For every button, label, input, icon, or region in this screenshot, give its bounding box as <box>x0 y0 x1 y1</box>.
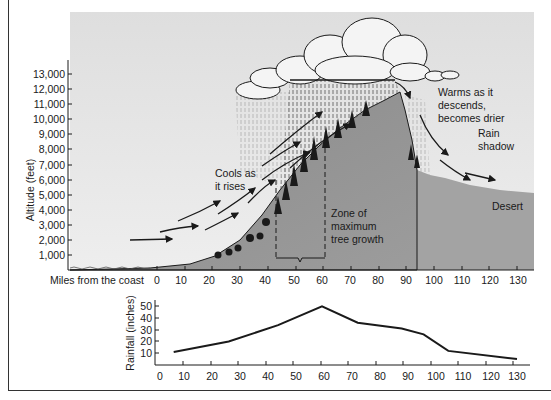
rainfall-axis-label: Rainfall (inches) <box>124 295 136 370</box>
y-tick: 7,000 <box>39 159 65 171</box>
y-tick: 40 <box>140 312 152 324</box>
annotation-desert: Desert <box>492 200 523 212</box>
annotation-line: Cools as <box>215 167 256 179</box>
x-tick: 30 <box>234 370 246 382</box>
diagram-canvas: 13,000 12,000 11,000 10,000 9,000 8,000 … <box>0 0 551 400</box>
y-tick: 8,000 <box>39 143 65 155</box>
x-tick: 30 <box>231 274 243 286</box>
x-tick: 120 <box>481 274 499 286</box>
x-tick: 10 <box>175 274 187 286</box>
x-tick: 70 <box>346 370 358 382</box>
rainfall-x-ticks <box>183 361 513 365</box>
x-tick: 90 <box>402 370 414 382</box>
x-tick: 90 <box>400 274 412 286</box>
x-tick: 10 <box>178 370 190 382</box>
rainfall-x-tick-labels: 0 10 20 30 40 50 60 70 80 90 100 110 120… <box>157 370 526 382</box>
annotation-line: maximum <box>331 220 377 232</box>
x-tick: 100 <box>427 370 445 382</box>
altitude-tick-labels: 13,000 12,000 11,000 10,000 9,000 8,000 … <box>33 68 65 261</box>
x-tick: 50 <box>288 274 300 286</box>
y-tick: 6,000 <box>39 174 65 186</box>
annotation-line: Rain <box>478 127 500 139</box>
x-tick: 110 <box>455 370 472 382</box>
x-tick: 40 <box>262 370 274 382</box>
y-tick: 13,000 <box>33 68 65 80</box>
rainfall-line <box>174 306 517 359</box>
x-tick: 50 <box>290 370 302 382</box>
altitude-axis-label: Altitude (feet) <box>24 159 36 221</box>
distance-tick-labels: 0 10 20 30 40 50 60 70 80 90 100 110 120… <box>154 274 527 286</box>
annotation-line: tree growth <box>331 233 384 245</box>
x-tick: 80 <box>374 370 386 382</box>
rainfall-y-ticks <box>155 306 159 353</box>
annotation-line: Warms as it <box>438 86 493 98</box>
y-tick: 1,000 <box>39 249 65 261</box>
y-tick: 9,000 <box>39 128 65 140</box>
x-tick: 60 <box>316 274 328 286</box>
annotation-line: shadow <box>478 140 515 152</box>
x-tick: 60 <box>318 370 330 382</box>
x-tick: 130 <box>508 370 526 382</box>
y-tick: 12,000 <box>33 83 65 95</box>
x-tick: 100 <box>425 274 443 286</box>
annotation-line: becomes drier <box>438 112 505 124</box>
annotation-line: Zone of <box>331 207 367 219</box>
x-tick: 40 <box>259 274 271 286</box>
y-tick: 4,000 <box>39 204 65 216</box>
annotation-line: descends, <box>438 99 486 111</box>
x-tick: 120 <box>482 370 500 382</box>
x-tick: 130 <box>509 274 527 286</box>
y-tick: 10,000 <box>33 113 65 125</box>
x-tick: 20 <box>203 274 215 286</box>
x-tick: 0 <box>157 370 163 382</box>
annotation-line: it rises <box>215 180 245 192</box>
x-tick: 110 <box>454 274 471 286</box>
y-tick: 10 <box>140 347 152 359</box>
x-axis-label: Miles from the coast <box>50 274 144 286</box>
y-tick: 3,000 <box>39 219 65 231</box>
y-tick: 5,000 <box>39 189 65 201</box>
y-tick: 20 <box>140 335 152 347</box>
x-tick: 80 <box>372 274 384 286</box>
y-tick: 11,000 <box>34 98 65 110</box>
x-tick: 20 <box>206 370 218 382</box>
x-tick: 0 <box>154 274 160 286</box>
rainfall-y-tick-labels: 50 40 30 20 10 <box>140 300 152 359</box>
y-tick: 2,000 <box>39 234 65 246</box>
y-tick: 50 <box>140 300 152 312</box>
x-tick: 70 <box>344 274 356 286</box>
